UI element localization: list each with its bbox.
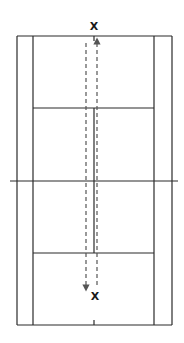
movement-paths — [86, 41, 97, 288]
player-marker-bottom: X — [91, 291, 99, 302]
player-marker-top: X — [90, 21, 98, 32]
court — [10, 36, 178, 325]
